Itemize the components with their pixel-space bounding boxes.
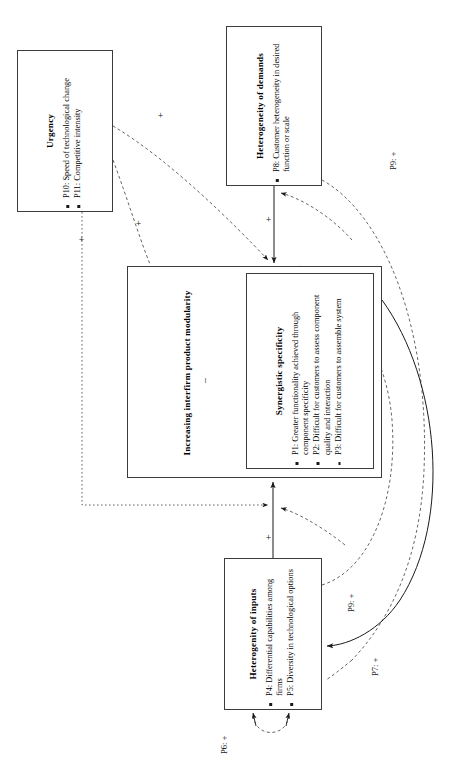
figure-canvas: Urgency P10: Speed of technological chan… bbox=[0, 0, 458, 760]
edge-label-p6: P6: + bbox=[219, 736, 229, 754]
synergistic-title: Synergistic specificity bbox=[274, 276, 284, 466]
modularity-title: Increasing interfirm product modularity bbox=[182, 270, 192, 476]
modularity-content: Increasing interfirm product modularity bbox=[182, 270, 199, 476]
construct-box-heterogeneity-of-inputs: Heterogenity of inputs P4: Differential … bbox=[224, 558, 322, 710]
synergistic-content: Synergistic specificity P1: Greater func… bbox=[274, 276, 345, 466]
synergistic-proposition-list: P1: Greater functionality achieved throu… bbox=[291, 276, 344, 466]
list-item: P2: Difficult for customers to assess co… bbox=[313, 276, 333, 466]
edge-label-demands-modularity: + bbox=[263, 216, 274, 222]
edge-label-synergistic-modularity-minus: – bbox=[199, 378, 210, 383]
demands-content: Heterogeneity of demands P8: Customer he… bbox=[255, 29, 293, 183]
urgency-proposition-list: P10: Speed of technological change P11: … bbox=[62, 53, 83, 209]
construct-box-increasing-interfirm-product-modularity: Increasing interfirm product modularity … bbox=[127, 266, 382, 478]
edge-label-urgency-inputs: + bbox=[76, 236, 87, 242]
edge-p6 bbox=[253, 713, 289, 733]
list-item: P1: Greater functionality achieved throu… bbox=[291, 276, 311, 466]
list-item: P10: Speed of technological change bbox=[62, 53, 72, 209]
construct-box-heterogeneity-of-demands: Heterogeneity of demands P8: Customer he… bbox=[226, 26, 322, 186]
list-item: P3: Difficult for customers to assemble … bbox=[334, 276, 344, 466]
list-item: P5: Diversity in technological options bbox=[287, 561, 297, 707]
edge-urgency-to-synergistic bbox=[113, 160, 150, 264]
edge-label-urgency-modularity: + bbox=[155, 112, 166, 118]
list-item: P11: Competitive intensity bbox=[74, 53, 84, 209]
list-item: P4: Differential capabilities among firm… bbox=[265, 561, 285, 707]
inputs-title: Heterogenity of inputs bbox=[248, 561, 258, 707]
edge-label-inputs-modularity: + bbox=[263, 534, 274, 540]
construct-box-synergistic-specificity: Synergistic specificity P1: Greater func… bbox=[246, 273, 374, 469]
inputs-content: Heterogenity of inputs P4: Differential … bbox=[248, 561, 298, 707]
list-item: P8: Customer heterogeneity in desired fu… bbox=[272, 29, 292, 183]
demands-proposition-list: P8: Customer heterogeneity in desired fu… bbox=[272, 29, 292, 183]
urgency-content: Urgency P10: Speed of technological chan… bbox=[45, 53, 84, 209]
urgency-title: Urgency bbox=[45, 53, 55, 209]
inputs-proposition-list: P4: Differential capabilities among firm… bbox=[265, 561, 297, 707]
edge-label-p9-lower: P9: + bbox=[346, 594, 356, 612]
construct-box-urgency: Urgency P10: Speed of technological chan… bbox=[17, 50, 113, 212]
edge-label-p7: P7: + bbox=[370, 658, 380, 676]
edge-label-urgency-synergistic: + bbox=[133, 220, 144, 226]
edge-label-p9-upper: P9: + bbox=[388, 152, 398, 170]
edge-p9-upper-head bbox=[281, 193, 352, 240]
demands-title: Heterogeneity of demands bbox=[255, 29, 265, 183]
